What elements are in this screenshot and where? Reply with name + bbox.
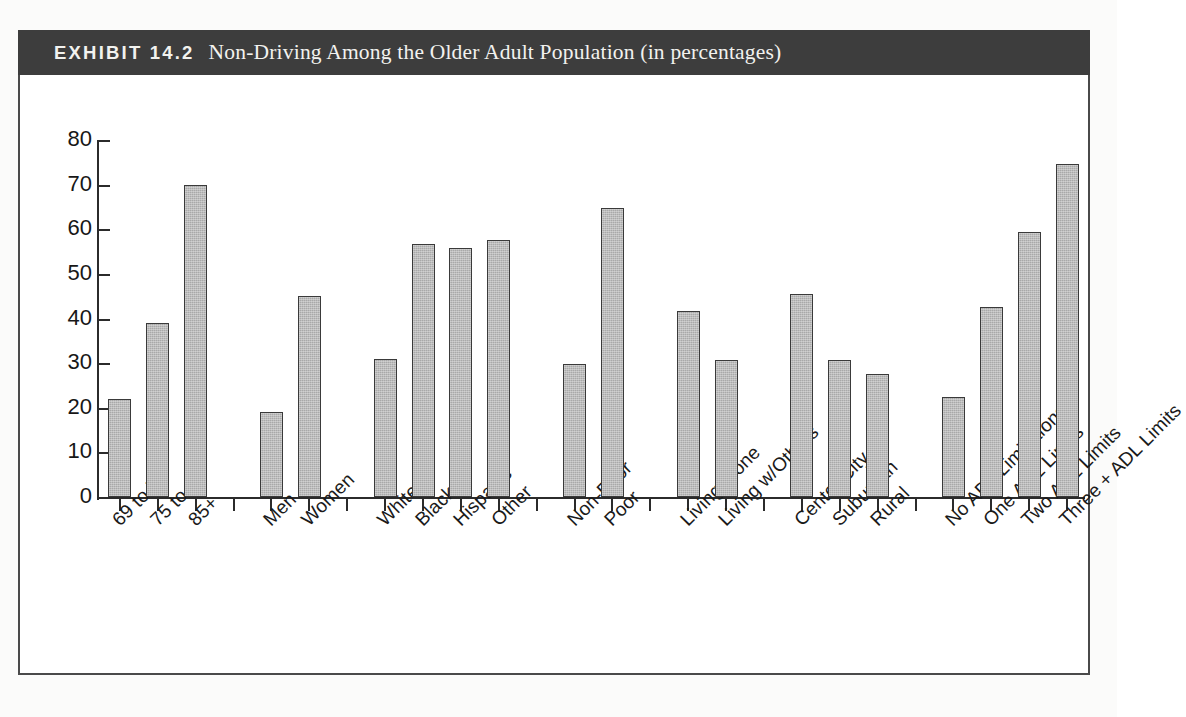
y-axis-tick: 20 <box>0 408 110 409</box>
x-axis-tick-mark <box>649 499 651 511</box>
y-axis-tick: 50 <box>0 274 110 275</box>
x-axis-tick-mark <box>763 499 765 511</box>
bar <box>942 397 965 497</box>
x-axis-tick-mark <box>346 499 348 511</box>
exhibit-title: Non-Driving Among the Older Adult Popula… <box>209 40 782 65</box>
x-axis-tick-mark <box>233 499 235 511</box>
y-axis-tick-mark <box>98 185 110 187</box>
bar <box>1056 164 1079 497</box>
x-axis-tick-mark <box>915 499 917 511</box>
y-axis-tick-label: 40 <box>32 305 92 331</box>
y-axis-tick: 60 <box>0 229 110 230</box>
y-axis-tick-label: 70 <box>32 171 92 197</box>
y-axis-tick: 10 <box>0 452 110 453</box>
y-axis-tick: 80 <box>0 140 110 141</box>
bar <box>601 208 624 497</box>
y-axis-tick-label: 10 <box>32 438 92 464</box>
y-axis-tick-mark <box>98 140 110 142</box>
y-axis-tick-mark <box>98 363 110 365</box>
bar <box>108 399 131 497</box>
y-axis-tick-label: 60 <box>32 215 92 241</box>
exhibit-number-label: EXHIBIT 14.2 <box>54 42 195 64</box>
y-axis-tick: 70 <box>0 185 110 186</box>
bar <box>1018 232 1041 497</box>
y-axis-tick-mark <box>98 319 110 321</box>
bar <box>146 323 169 497</box>
bar <box>866 374 889 497</box>
y-axis-tick-label: 20 <box>32 394 92 420</box>
x-axis-tick-mark <box>536 499 538 511</box>
y-axis-tick-mark <box>98 274 110 276</box>
y-axis-tick: 40 <box>0 319 110 320</box>
bar <box>260 412 283 497</box>
bar <box>298 296 321 497</box>
bar <box>374 359 397 497</box>
bar <box>790 294 813 497</box>
exhibit-header: EXHIBIT 14.2 Non-Driving Among the Older… <box>18 30 1090 75</box>
bar <box>677 311 700 497</box>
y-axis-tick: 30 <box>0 363 110 364</box>
bar <box>449 248 472 497</box>
bar <box>715 360 738 497</box>
y-axis-tick-mark <box>98 229 110 231</box>
y-axis-tick-label: 30 <box>32 349 92 375</box>
y-axis-tick-label: 80 <box>32 126 92 152</box>
y-axis-tick-mark <box>98 497 110 499</box>
bar <box>412 244 435 497</box>
bar <box>563 364 586 497</box>
bar-chart-plot-area <box>97 143 1082 497</box>
bar <box>487 240 510 497</box>
y-axis-tick: 0 <box>0 497 110 498</box>
y-axis-tick-label: 50 <box>32 260 92 286</box>
bar <box>980 307 1003 497</box>
y-axis-tick-label: 0 <box>32 483 92 509</box>
bar <box>828 360 851 497</box>
bar <box>184 185 207 497</box>
